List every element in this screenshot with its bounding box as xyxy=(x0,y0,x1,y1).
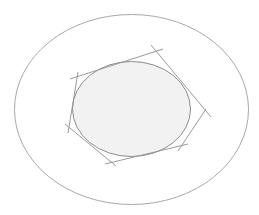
inner-ellipse xyxy=(73,62,191,157)
diagram-canvas xyxy=(0,0,259,215)
